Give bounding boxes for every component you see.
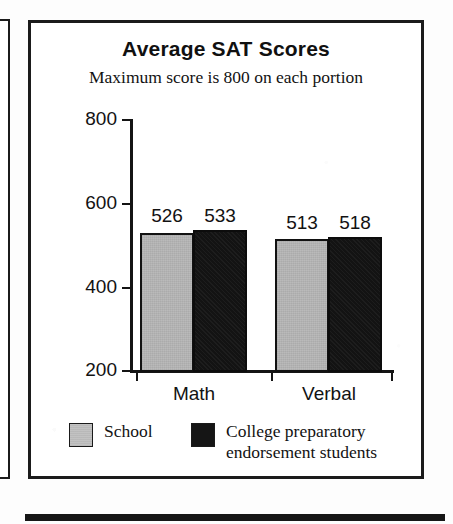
legend-label-school: School (104, 421, 153, 442)
bar-value-verbal-school: 513 (272, 212, 332, 234)
bar-verbal-prep (328, 237, 382, 372)
y-tick-label-400: 400 (55, 276, 117, 298)
y-tick-label-800: 800 (55, 108, 117, 130)
scanned-page: Average SAT Scores Maximum score is 800 … (0, 0, 453, 524)
legend-entry-school: School (69, 421, 153, 447)
x-tick-mark-mid (271, 373, 273, 381)
chart-panel: Average SAT Scores Maximum score is 800 … (28, 20, 424, 479)
y-tick-mark-400 (122, 287, 131, 289)
y-axis-line (130, 119, 133, 372)
x-tick-mark-left (136, 373, 138, 381)
x-tick-mark-right (391, 373, 393, 381)
chart-legend: School College preparatory endorsement s… (41, 415, 421, 473)
legend-swatch-prep-icon (191, 423, 215, 447)
y-tick-mark-800 (122, 119, 131, 121)
y-tick-mark-200 (122, 370, 131, 372)
y-tick-label-200: 200 (55, 359, 117, 381)
bar-value-math-prep: 533 (190, 205, 250, 227)
legend-swatch-school-icon (69, 423, 93, 447)
adjacent-panel-fragment (0, 19, 10, 479)
x-axis-label-verbal: Verbal (269, 383, 389, 405)
bar-math-school (140, 233, 194, 372)
legend-entry-prep: College preparatory endorsement students (191, 421, 377, 463)
bar-value-math-school: 526 (137, 205, 197, 227)
x-axis-label-math: Math (134, 383, 254, 405)
legend-label-prep: College preparatory endorsement students (226, 421, 377, 463)
bar-verbal-school (275, 239, 329, 372)
bar-math-prep (193, 230, 247, 372)
y-tick-label-600: 600 (55, 192, 117, 214)
next-figure-edge (25, 514, 445, 521)
bar-value-verbal-prep: 518 (325, 212, 385, 234)
plot-area: 800 600 400 200 526 533 513 518 (31, 23, 421, 476)
y-tick-mark-600 (122, 203, 131, 205)
